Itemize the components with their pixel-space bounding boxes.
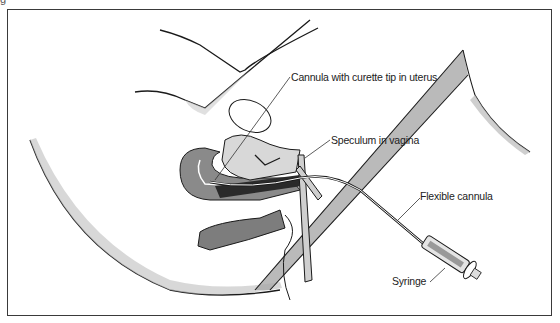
label-speculum: Speculum in vagina: [331, 134, 419, 146]
label-syringe: Syringe: [392, 275, 426, 287]
body-shading: [185, 70, 250, 115]
syringe: [419, 232, 484, 284]
rectum: [198, 210, 285, 250]
label-flexible-cannula: Flexible cannula: [420, 190, 493, 202]
body-outline-upper: [135, 20, 318, 108]
anatomy-illustration: [0, 0, 560, 323]
label-cannula-curette: Cannula with curette tip in uterus: [291, 71, 437, 83]
